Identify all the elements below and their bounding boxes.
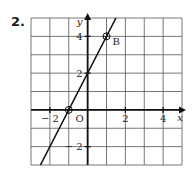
svg-text:x: x — [177, 112, 183, 123]
svg-text:y: y — [76, 16, 83, 27]
svg-text:2: 2 — [122, 113, 128, 124]
svg-text:O: O — [76, 113, 84, 124]
svg-text:− 2: − 2 — [65, 141, 83, 152]
svg-text:4: 4 — [160, 113, 166, 124]
svg-text:− 2: − 2 — [41, 113, 59, 124]
svg-text:2: 2 — [76, 68, 82, 79]
svg-text:B: B — [113, 36, 120, 47]
svg-text:4: 4 — [76, 31, 82, 42]
coordinate-graph: − 22442− 2OxyB — [0, 0, 192, 173]
